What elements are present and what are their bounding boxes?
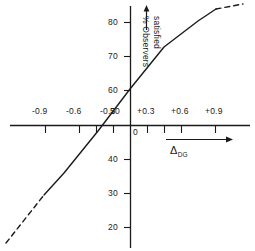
x-axis-title-base: Δ xyxy=(170,144,178,156)
x-axis-arrow-icon xyxy=(166,137,233,143)
chart-canvas: -0.9 -0.6 -0.3 +0.3 +0.6 +0.9 80 70 60 5… xyxy=(0,0,255,251)
data-line-dashed-lower xyxy=(6,195,44,243)
y-axis-title-line2: satisfied xyxy=(152,16,162,49)
y-tick-label-30: 30 xyxy=(108,188,118,198)
y-tick-label-40: 40 xyxy=(108,154,118,164)
x-axis-title-subscript: DG xyxy=(178,151,188,158)
x-tick-label--0.6: -0.6 xyxy=(66,106,81,116)
x-axis-title: ΔDG xyxy=(170,144,188,158)
y-axis-title-line1: % Observers xyxy=(141,16,151,67)
y-tick-label-70: 70 xyxy=(108,51,118,61)
y-tick-label-20: 20 xyxy=(108,222,118,232)
chart-svg xyxy=(0,0,255,251)
origin-label: 0 xyxy=(133,127,138,137)
y-axis-title: % Observers satisfied xyxy=(140,16,162,90)
x-tick-label--0.9: -0.9 xyxy=(32,106,47,116)
x-tick-label-+0.3: +0.3 xyxy=(137,106,155,116)
y-tick-label-50: 50 xyxy=(110,106,120,116)
x-tick-label-+0.6: +0.6 xyxy=(171,106,189,116)
x-tick-label-+0.9: +0.9 xyxy=(205,106,223,116)
data-line-dashed-upper xyxy=(216,4,243,9)
y-tick-label-60: 60 xyxy=(108,85,118,95)
y-tick-label-80: 80 xyxy=(108,17,118,27)
